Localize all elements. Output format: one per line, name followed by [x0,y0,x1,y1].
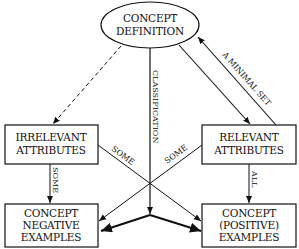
node-label-line: EXAMPLES [21,231,81,243]
node-label-line: EXAMPLES [219,231,279,243]
edge-definition-to-relevant [179,45,250,124]
node-concept-negative-examples: CONCEPT NEGATIVE EXAMPLES [5,204,98,247]
node-label-line: NEGATIVE [22,219,79,231]
node-label-line: CONCEPT [123,12,177,24]
node-concept-definition: CONCEPT DEFINITION [101,2,199,48]
edge-definition-to-irrelevant [53,46,121,124]
node-label-line: ATTRIBUTES [213,144,284,156]
edge-classification-to-negative [101,215,150,231]
edge-label-relevant-to-positive: ALL [250,170,259,188]
concept-diagram: CONCEPT DEFINITION IRRELEVANT ATTRIBUTES… [0,0,299,249]
node-label-line: DEFINITION [116,25,184,37]
node-label-line: CONCEPT [222,207,276,219]
node-label-line: (POSITIVE) [219,219,279,231]
edge-label-relevant-to-negative: SOME [163,143,190,166]
node-relevant-attributes: RELEVANT ATTRIBUTES [202,125,296,164]
node-label-line: ATTRIBUTES [15,144,86,156]
edge-label-classification: CLASSIFICATION [151,70,160,143]
edge-minimal-set [198,37,276,125]
node-concept-positive-examples: CONCEPT (POSITIVE) EXAMPLES [202,204,296,247]
node-irrelevant-attributes: IRRELEVANT ATTRIBUTES [5,125,98,164]
node-label-line: CONCEPT [24,207,78,219]
node-label-line: IRRELEVANT [16,131,87,143]
node-label-line: RELEVANT [219,131,278,143]
edge-label-irrelevant-to-negative: SOME [51,167,60,193]
edge-classification-to-positive [150,215,201,231]
